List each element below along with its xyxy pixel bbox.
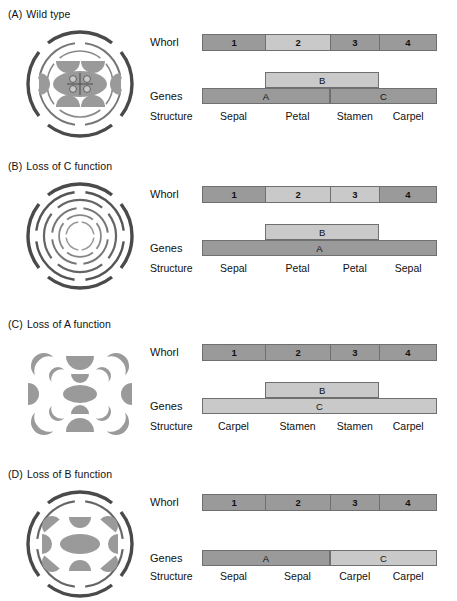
whorl-segment-4: 4 — [379, 35, 436, 50]
whorl-segment-4: 4 — [379, 345, 436, 360]
whorl-segment-1: 1 — [203, 345, 265, 360]
panel-tag: (B) — [8, 160, 22, 172]
gene-bar-A: A — [202, 88, 330, 104]
genes-row-label: Genes — [150, 552, 182, 564]
panel-title: (B)Loss of C function — [8, 160, 112, 172]
gene-label-B: B — [266, 225, 378, 239]
genes-row-label: Genes — [150, 400, 182, 412]
gene-bar-A: A — [202, 240, 437, 256]
whorl-segment-3: 3 — [330, 187, 379, 202]
whorl-segment-2: 2 — [265, 345, 330, 360]
panel-title-text: Loss of C function — [26, 160, 112, 172]
gene-bar-B: B — [265, 382, 379, 398]
whorl-row-label: Whorl — [150, 496, 179, 508]
whorl-bar: 1234 — [202, 34, 437, 51]
panel-tag: (D) — [8, 468, 23, 480]
gene-label-A: A — [203, 241, 436, 255]
whorl-segment-1: 1 — [203, 187, 265, 202]
gene-label-C: C — [331, 551, 436, 565]
loss-of-c-flower — [8, 176, 153, 294]
gene-bar-B: B — [265, 224, 379, 240]
whorl-bar: 1234 — [202, 494, 437, 511]
whorl-segment-4: 4 — [379, 495, 436, 510]
gene-label-A: A — [203, 89, 329, 103]
whorl-row-label: Whorl — [150, 346, 179, 358]
panel-title-text: Wild type — [26, 8, 70, 20]
whorl-bar: 1234 — [202, 186, 437, 203]
structure-cell-4: Carpel — [373, 420, 443, 432]
whorl-row-label: Whorl — [150, 188, 179, 200]
panel-title-text: Loss of A function — [27, 318, 111, 330]
loss-of-b-flower — [8, 484, 153, 601]
whorl-segment-3: 3 — [330, 345, 379, 360]
structure-cell-1: Sepal — [198, 110, 268, 122]
panel-title: (C)Loss of A function — [8, 318, 111, 330]
genes-row-label: Genes — [150, 242, 182, 254]
structure-cell-1: Sepal — [198, 570, 268, 582]
gene-label-C: C — [331, 89, 436, 103]
whorl-segment-2: 2 — [265, 187, 330, 202]
structure-cell-1: Sepal — [198, 262, 268, 274]
gene-bar-C: C — [202, 398, 437, 414]
gene-bar-C: C — [330, 550, 437, 566]
whorl-segment-4: 4 — [379, 187, 436, 202]
panel-title: (A)Wild type — [8, 8, 70, 20]
structure-cell-4: Carpel — [373, 570, 443, 582]
structure-row-label: Structure — [150, 262, 193, 274]
panel-tag: (C) — [8, 318, 23, 330]
panel-tag: (A) — [8, 8, 22, 20]
panel-title-text: Loss of B function — [27, 468, 112, 480]
gene-label-B: B — [266, 383, 378, 397]
gene-bar-A: A — [202, 550, 330, 566]
whorl-bar: 1234 — [202, 344, 437, 361]
structure-row-label: Structure — [150, 110, 193, 122]
whorl-segment-3: 3 — [330, 495, 379, 510]
genes-row-label: Genes — [150, 90, 182, 102]
structure-row-label: Structure — [150, 570, 193, 582]
gene-bar-C: C — [330, 88, 437, 104]
gene-label-A: A — [203, 551, 329, 565]
whorl-segment-1: 1 — [203, 35, 265, 50]
panel-title: (D)Loss of B function — [8, 468, 112, 480]
gene-label-B: B — [266, 73, 378, 87]
whorl-row-label: Whorl — [150, 36, 179, 48]
loss-of-a-flower — [8, 334, 153, 452]
gene-bar-B: B — [265, 72, 379, 88]
whorl-segment-1: 1 — [203, 495, 265, 510]
wild-type-flower — [8, 24, 153, 142]
whorl-segment-2: 2 — [265, 495, 330, 510]
structure-cell-4: Carpel — [373, 110, 443, 122]
structure-cell-4: Sepal — [373, 262, 443, 274]
gene-label-C: C — [203, 399, 436, 413]
whorl-segment-2: 2 — [265, 35, 330, 50]
structure-cell-1: Carpel — [198, 420, 268, 432]
whorl-segment-3: 3 — [330, 35, 379, 50]
structure-row-label: Structure — [150, 420, 193, 432]
